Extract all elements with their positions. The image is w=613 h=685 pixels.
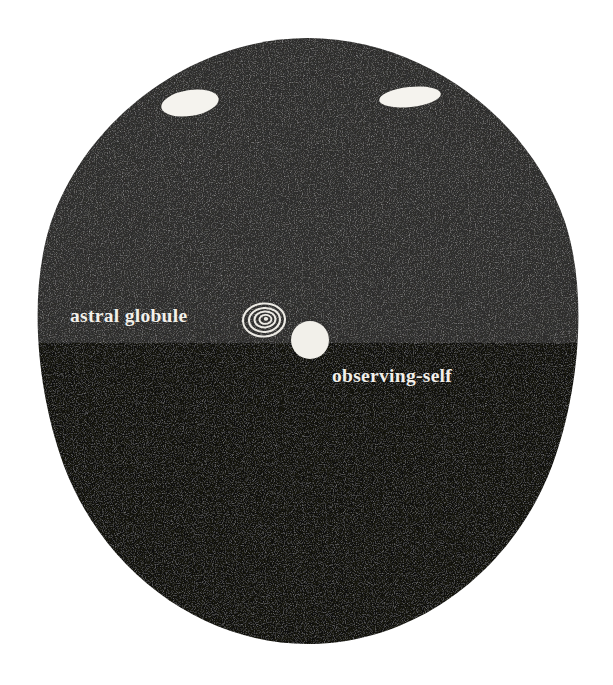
observing-self-disc (291, 321, 329, 359)
figure-canvas: astral globule observing-self (0, 0, 613, 685)
label-observing-self: observing-self (332, 365, 452, 386)
astral-globule-diagram: astral globule observing-self (0, 0, 613, 685)
label-astral-globule: astral globule (70, 305, 187, 326)
